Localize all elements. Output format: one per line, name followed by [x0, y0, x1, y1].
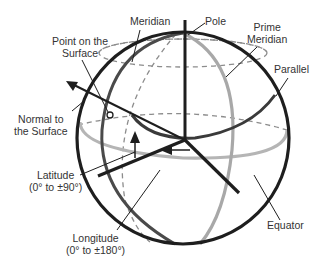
label-latitude-line2: (0° to ±90°)	[29, 181, 82, 193]
label-point-on-surface: Point on the Surface	[52, 35, 108, 59]
label-latitude: Latitude (0° to ±90°)	[29, 169, 82, 193]
vectors	[70, 83, 239, 193]
label-prime-meridian: Prime Meridian	[247, 21, 287, 45]
label-pole: Pole	[205, 15, 226, 27]
label-latitude-line1: Latitude	[29, 169, 82, 181]
label-point-line2: Surface	[52, 47, 108, 59]
label-meridian: Meridian	[130, 15, 170, 27]
label-prime-meridian-line1: Prime	[247, 21, 287, 33]
label-normal-line1: Normal to	[14, 113, 68, 125]
normal-vector	[70, 83, 185, 140]
label-normal-to-surface: Normal to the Surface	[14, 113, 68, 137]
label-longitude: Longitude (0° to ±180°)	[66, 232, 125, 256]
label-point-line1: Point on the	[52, 35, 108, 47]
surface-point	[107, 112, 113, 118]
label-longitude-line2: (0° to ±180°)	[66, 244, 125, 256]
latitude-arrowhead	[130, 131, 140, 143]
label-equator: Equator	[267, 219, 304, 231]
label-prime-meridian-line2: Meridian	[247, 33, 287, 45]
label-normal-line2: the Surface	[14, 125, 68, 137]
parallel	[132, 95, 275, 138]
label-longitude-line1: Longitude	[66, 232, 125, 244]
label-parallel: Parallel	[274, 63, 309, 75]
